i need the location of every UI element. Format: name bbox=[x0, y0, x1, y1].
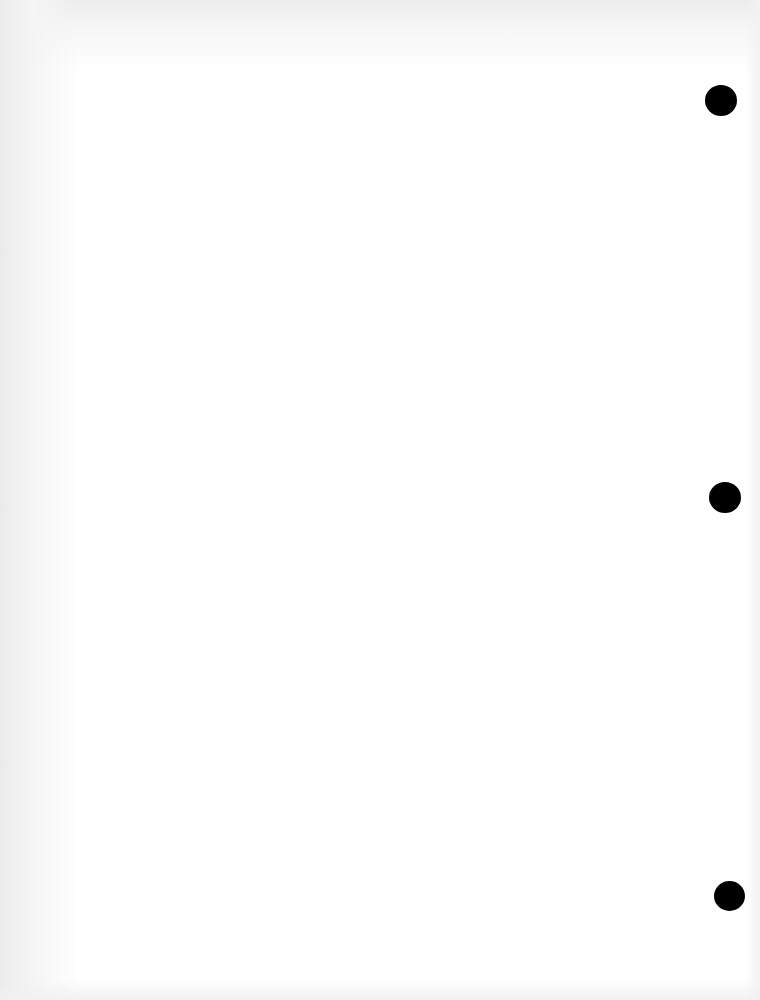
scanned-page bbox=[0, 0, 760, 1000]
page-edge-shadow-top bbox=[0, 0, 760, 70]
punch-hole-bottom bbox=[714, 881, 745, 911]
page-edge-shadow-left bbox=[0, 0, 80, 1000]
page-edge-shadow-right bbox=[746, 0, 760, 1000]
punch-hole-top bbox=[705, 85, 737, 116]
punch-hole-middle bbox=[709, 482, 741, 513]
page-edge-shadow-bottom bbox=[0, 980, 760, 1000]
